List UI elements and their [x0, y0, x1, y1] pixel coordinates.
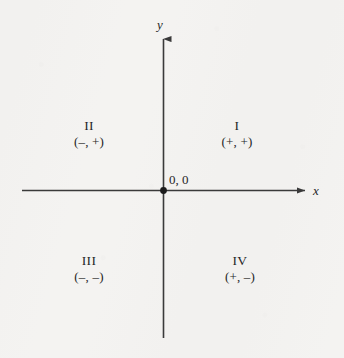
quadrant-iv-signs: (+, –) [225, 269, 255, 285]
origin-point [160, 187, 167, 194]
quadrant-iii-numeral: III [74, 253, 103, 269]
origin-label: 0, 0 [169, 173, 189, 186]
x-axis-label: x [313, 184, 319, 197]
quadrant-i: I (+, +) [221, 118, 252, 150]
y-axis-label: y [157, 18, 163, 31]
quadrant-iv: IV (+, –) [225, 253, 255, 285]
quadrant-i-signs: (+, +) [221, 134, 252, 150]
quadrant-iv-numeral: IV [225, 253, 255, 269]
quadrant-diagram: y x 0, 0 I (+, +) II (–, +) III (–, –) I… [0, 0, 344, 358]
quadrant-iii-signs: (–, –) [74, 269, 103, 285]
quadrant-ii-numeral: II [74, 118, 104, 134]
quadrant-i-numeral: I [221, 118, 252, 134]
quadrant-iii: III (–, –) [74, 253, 103, 285]
quadrant-ii: II (–, +) [74, 118, 104, 150]
quadrant-ii-signs: (–, +) [74, 134, 104, 150]
